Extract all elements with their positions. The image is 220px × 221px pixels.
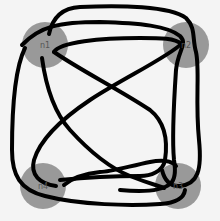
node-n1-label: n1 [40, 41, 50, 50]
node-n4-label: n4 [38, 182, 48, 191]
node-n3-label: n3 [173, 182, 183, 191]
graph-svg: n1 n2 n3 n4 [0, 0, 220, 221]
graph-canvas: n1 n2 n3 n4 [0, 0, 220, 221]
node-n2-label: n2 [181, 41, 191, 50]
